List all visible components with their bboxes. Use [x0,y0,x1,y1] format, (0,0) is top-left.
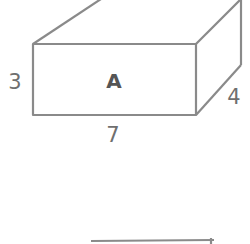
prism-diagram: 3 7 4 A [0,0,250,244]
height-label: 3 [8,70,21,94]
top-left-edge [33,0,101,44]
top-right-edge [196,0,241,44]
depth-label: 4 [227,85,240,109]
second-figure-top-edge [91,240,214,241]
length-label: 7 [106,123,119,147]
face-label: A [106,69,122,93]
